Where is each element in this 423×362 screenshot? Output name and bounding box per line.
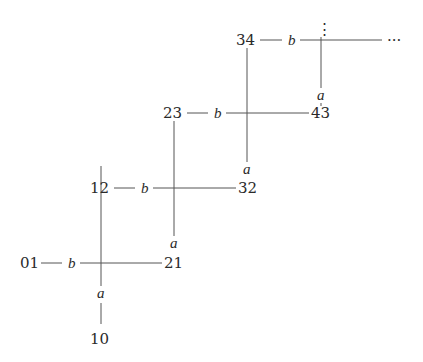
node-23: 23 [163, 104, 182, 122]
edge-label-a-3: a [243, 161, 251, 177]
node-21: 21 [164, 254, 183, 272]
edge-label-b-4: b [288, 32, 296, 48]
node-10: 10 [90, 330, 109, 348]
edge-label-a-1: a [97, 285, 105, 301]
vertical-continuation: ⋮ [317, 20, 332, 38]
node-01: 01 [20, 254, 39, 272]
staircase-diagram: 01 b 21 a 10 12 b 32 a 23 b 43 a 34 b ··… [0, 0, 423, 362]
node-12: 12 [90, 179, 109, 197]
edge-label-a-2: a [170, 235, 178, 251]
edge-label-b-3: b [214, 105, 222, 121]
horizontal-continuation: ··· [387, 31, 401, 49]
edge-label-b-2: b [141, 180, 149, 196]
edge-label-b-1: b [68, 255, 76, 271]
node-32: 32 [238, 179, 257, 197]
edge-label-a-4: a [317, 87, 325, 103]
node-43: 43 [311, 104, 330, 122]
node-34: 34 [236, 31, 255, 49]
